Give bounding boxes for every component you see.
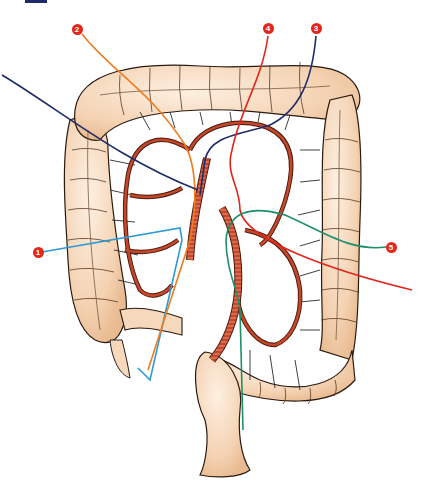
line-3-navy-line xyxy=(2,36,316,195)
appendix xyxy=(110,340,130,378)
terminal-ileum xyxy=(120,308,182,335)
callout-marker-4: 4 xyxy=(263,23,274,34)
ascending-colon xyxy=(64,117,126,343)
anatomy-illustration xyxy=(0,0,423,489)
corner-tab xyxy=(25,0,47,3)
callout-marker-5: 5 xyxy=(386,242,397,253)
callout-marker-2: 2 xyxy=(72,24,83,35)
colon-arterial-diagram: 12345 xyxy=(0,0,423,489)
colon xyxy=(64,62,361,477)
callout-marker-1: 1 xyxy=(33,247,44,258)
callout-marker-3: 3 xyxy=(311,23,322,34)
descending-colon xyxy=(320,95,361,360)
